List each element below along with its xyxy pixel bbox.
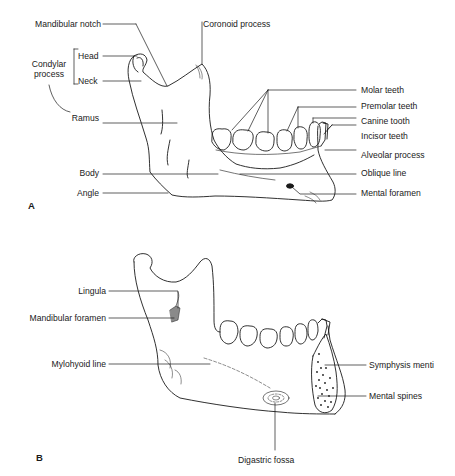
mandible-medial-view [134, 254, 346, 414]
mandible-lateral-view [128, 54, 335, 203]
label-symphysis-menti: Symphysis menti [369, 360, 434, 370]
label-incisor-teeth: Incisor teeth [361, 131, 408, 141]
label-condylar-process: Condylar process [26, 59, 72, 79]
label-head: Head [78, 51, 99, 61]
teeth-lateral [212, 122, 328, 155]
label-angle: Angle [40, 188, 99, 198]
label-coronoid-process: Coronoid process [203, 19, 270, 29]
panel-letter-a: A [28, 200, 35, 211]
label-body: Body [40, 168, 99, 178]
label-oblique-line: Oblique line [361, 168, 406, 178]
label-digastric-fossa: Digastric fossa [238, 455, 294, 465]
condylar-line-2: process [26, 69, 72, 79]
label-mental-spines: Mental spines [369, 391, 422, 401]
label-lingula: Lingula [30, 286, 106, 296]
label-molar-teeth: Molar teeth [361, 85, 404, 95]
condylar-line-1: Condylar [26, 59, 72, 69]
panel-letter-b: B [36, 452, 43, 463]
label-mental-foramen: Mental foramen [361, 188, 421, 198]
label-canine-tooth: Canine tooth [361, 116, 410, 126]
label-ramus: Ramus [40, 113, 99, 123]
label-mandibular-foramen: Mandibular foramen [10, 313, 106, 323]
label-neck: Neck [78, 76, 98, 86]
label-premolar-teeth: Premolar teeth [361, 101, 417, 111]
symphysis-stipple [315, 353, 334, 408]
label-mylohyoid-line: Mylohyoid line [20, 359, 106, 369]
label-mandibular-notch: Mandibular notch [22, 19, 101, 29]
label-alveolar-process: Alveolar process [361, 150, 425, 160]
